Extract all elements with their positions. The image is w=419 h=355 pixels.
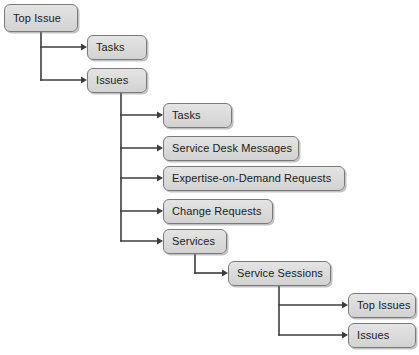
node-change-requests[interactable]: Change Requests [163,199,273,224]
diagram-canvas: Top IssueTasksIssuesTasksService Desk Me… [0,0,419,355]
node-label: Tasks [96,42,125,53]
node-issues-l1[interactable]: Issues [87,68,147,93]
node-tasks-l2[interactable]: Tasks [163,103,232,128]
node-label: Issues [357,330,389,341]
node-service-sessions[interactable]: Service Sessions [228,261,331,286]
node-top-issue[interactable]: Top Issue [4,4,78,32]
node-label: Service Sessions [237,268,323,279]
node-label: Change Requests [172,206,262,217]
node-service-desk-messages[interactable]: Service Desk Messages [163,136,299,161]
node-label: Service Desk Messages [172,143,292,154]
node-label: Services [172,236,215,247]
node-label: Top Issues [357,300,411,311]
node-services[interactable]: Services [163,229,227,254]
node-label: Expertise-on-Demand Requests [172,173,331,184]
node-top-issues-l4[interactable]: Top Issues [348,293,416,318]
node-expertise-on-demand-requests[interactable]: Expertise-on-Demand Requests [163,166,345,191]
node-issues-l4[interactable]: Issues [348,323,416,348]
node-label: Top Issue [13,13,61,24]
node-label: Issues [96,75,128,86]
node-tasks-l1[interactable]: Tasks [87,35,147,60]
node-label: Tasks [172,110,201,121]
